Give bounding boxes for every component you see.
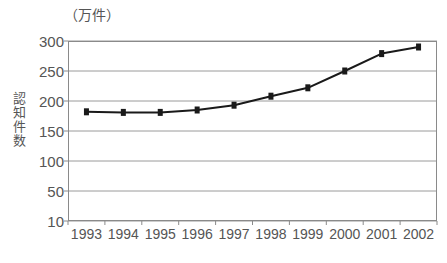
data-point	[195, 107, 200, 114]
data-point	[158, 109, 163, 116]
x-tick-marks	[68, 221, 437, 225]
data-point	[379, 50, 384, 57]
chart-container: （万件） 認知件数 3002502001501005010 1993199419…	[0, 0, 447, 263]
plot-area	[0, 0, 447, 263]
data-point	[121, 109, 126, 116]
data-point	[416, 44, 421, 51]
data-point	[268, 93, 273, 100]
data-point	[84, 108, 89, 115]
gridlines	[68, 41, 437, 221]
data-point	[305, 84, 310, 91]
data-line	[86, 47, 418, 112]
data-point	[232, 102, 237, 109]
data-markers	[84, 44, 421, 116]
y-tick-marks	[64, 41, 68, 221]
data-point	[342, 68, 347, 75]
